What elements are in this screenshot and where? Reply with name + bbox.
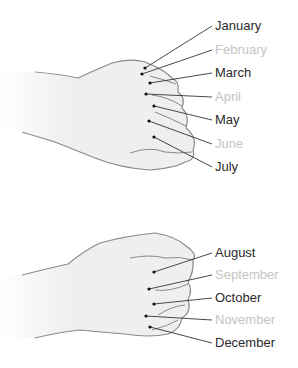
knuckle-dot-june: [147, 119, 150, 122]
knuckle-dot-august: [152, 270, 155, 273]
knuckle-dot-april: [144, 92, 147, 95]
leader-line-february: [142, 50, 212, 74]
knuckle-dot-march: [148, 81, 151, 84]
knuckle-dot-october: [152, 302, 155, 305]
knuckle-dot-may: [152, 104, 155, 107]
top-fist-illustration: [0, 60, 194, 170]
month-label-may: May: [215, 112, 240, 127]
month-label-september: September: [215, 267, 279, 282]
knuckle-dot-july: [152, 135, 155, 138]
knuckle-dot-november: [144, 314, 147, 317]
month-label-august: August: [215, 245, 255, 260]
month-label-november: November: [215, 312, 275, 327]
knuckle-dot-september: [147, 287, 150, 290]
knuckle-dot-january: [143, 66, 146, 69]
month-label-february: February: [215, 42, 267, 57]
month-label-march: March: [215, 65, 251, 80]
knuckle-dot-february: [140, 72, 143, 75]
month-label-april: April: [215, 89, 241, 104]
month-label-january: January: [215, 18, 261, 33]
knuckle-dot-december: [148, 325, 151, 328]
month-label-october: October: [215, 290, 261, 305]
month-label-july: July: [215, 159, 238, 174]
month-label-june: June: [215, 136, 243, 151]
month-label-december: December: [215, 335, 275, 350]
